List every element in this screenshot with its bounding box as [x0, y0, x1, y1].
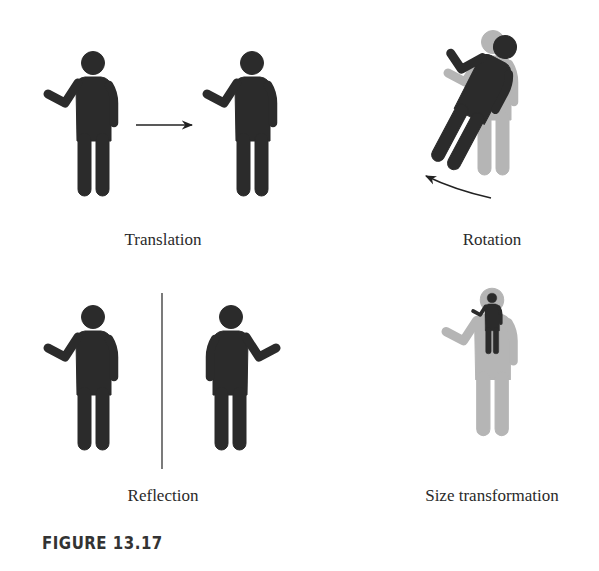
person-original-light-icon — [446, 288, 513, 435]
person-translated-icon — [207, 52, 273, 197]
size-transformation-label: Size transformation — [425, 486, 559, 506]
translation-label: Translation — [125, 230, 202, 250]
size-transformation-panel — [446, 288, 513, 435]
figure-caption: FIGURE 13.17 — [42, 533, 163, 554]
rotation-arrow-icon — [426, 176, 491, 198]
person-reflected-icon — [210, 306, 276, 451]
person-original-icon — [48, 306, 114, 451]
rotation-panel — [403, 16, 529, 198]
translation-panel — [48, 52, 273, 197]
reflection-label: Reflection — [128, 486, 199, 506]
rotation-label: Rotation — [463, 230, 522, 250]
person-original-icon — [48, 52, 114, 197]
reflection-panel — [48, 293, 276, 469]
